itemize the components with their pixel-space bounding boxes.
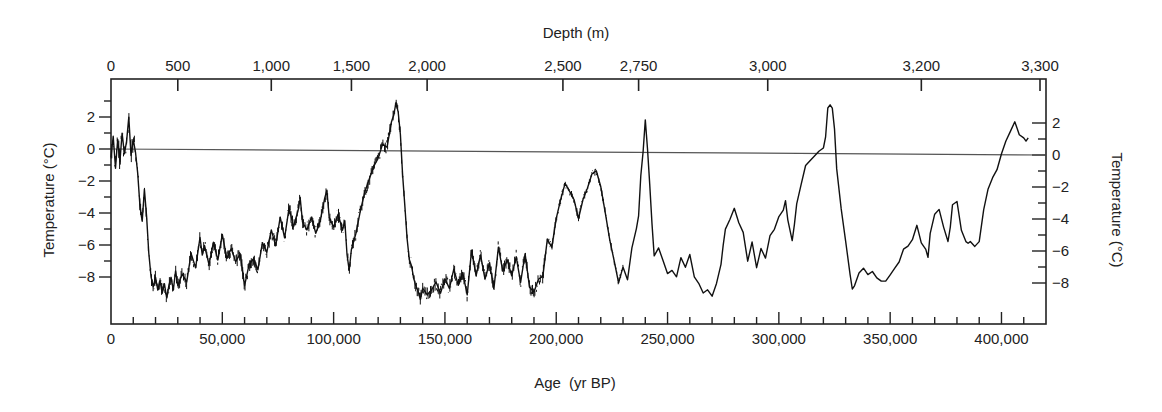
y2-tick-label: −8 [1052,274,1069,291]
x-tick-label: 200,000 [529,330,583,347]
plot-frame [111,79,1046,324]
right-y-axis-title: Temperature (°C) [1109,152,1126,267]
depth-tick-label: 500 [165,57,190,74]
top-axis-title: Depth (m) [543,24,610,41]
temperature-series-noise [111,100,623,305]
x-tick-label: 0 [107,330,115,347]
x-axis-title-unit: (yr BP) [569,374,616,391]
y-tick-label: −8 [78,268,95,285]
depth-tick-label: 0 [107,57,115,74]
y2-tick-label: −6 [1052,242,1069,259]
depth-tick-label: 3,300 [1021,57,1059,74]
y-tick-label: −6 [78,236,95,253]
x-tick-label: 400,000 [974,330,1028,347]
x-tick-label: 150,000 [418,330,472,347]
x-tick-label: 250,000 [640,330,694,347]
y2-tick-label: 2 [1052,114,1060,131]
y-tick-label: 0 [87,140,95,157]
depth-axis-title: Depth (m) [543,24,610,41]
x-axis-title-main: Age [534,374,561,391]
depth-tick-label: 2,750 [620,57,658,74]
plot-border [111,79,1046,324]
y-tick-label: −4 [78,204,95,221]
top-depth-axis: 05001,0001,5002,0002,5002,7503,0003,2003… [107,57,1059,91]
temperature-series-line [111,103,1028,300]
depth-tick-label: 2,000 [408,57,446,74]
y2-tick-label: 0 [1052,146,1060,163]
y-tick-label: 2 [87,108,95,125]
x-axis-title: Age (yr BP) [534,374,616,391]
y2-tick-label: −2 [1052,178,1069,195]
ice-core-temperature-chart: Depth (m) 05001,0001,5002,0002,5002,7503… [0,0,1162,412]
x-tick-label: 100,000 [307,330,361,347]
depth-tick-label: 1,000 [253,57,291,74]
depth-tick-label: 3,200 [903,57,941,74]
left-y-axis-title: Temperature (°C) [40,142,57,257]
depth-tick-label: 1,500 [333,57,371,74]
x-tick-label: 50,000 [199,330,245,347]
x-tick-label: 300,000 [752,330,806,347]
bottom-age-axis: 050,000100,000150,000200,000250,000300,0… [107,312,1029,347]
left-temperature-axis: 20−2−4−6−8 [78,101,111,285]
zero-reference-line [111,149,1046,155]
right-temperature-axis: 20−2−4−6−8 [1032,114,1069,291]
y-tick-label: −2 [78,172,95,189]
y2-tick-label: −4 [1052,210,1069,227]
depth-tick-label: 2,500 [544,57,582,74]
x-tick-label: 350,000 [863,330,917,347]
depth-tick-label: 3,000 [749,57,787,74]
